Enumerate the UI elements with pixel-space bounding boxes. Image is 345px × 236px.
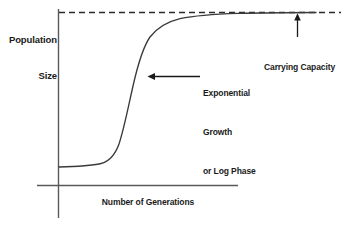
y-axis-label-line-1: Population <box>9 34 57 46</box>
y-axis-label-line-2: Size <box>9 70 57 82</box>
exponential-growth-annotation-line-1: Exponential <box>203 87 256 100</box>
carrying-capacity-annotation-label: Carrying Capacity <box>264 40 335 95</box>
y-axis-label: Population Size <box>9 10 57 106</box>
carrying-capacity-annotation-line-1: Carrying Capacity <box>264 62 335 73</box>
exponential-growth-annotation-line-3: or Log Phase <box>203 165 256 178</box>
exponential-growth-arrow <box>148 73 201 80</box>
exponential-growth-annotation-line-2: Growth <box>203 126 256 139</box>
carrying-capacity-arrow <box>294 13 301 37</box>
population-growth-chart: Population Size Number of Generations Ca… <box>0 0 345 236</box>
exponential-growth-annotation-label: Exponential Growth or Log Phase <box>203 61 256 204</box>
